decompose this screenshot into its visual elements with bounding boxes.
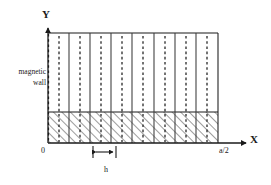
hatched-substrate-region xyxy=(48,112,218,143)
x-end-label: a/2 xyxy=(219,147,229,155)
y-axis-label: Y xyxy=(42,9,50,20)
origin-label: 0 xyxy=(41,147,45,155)
magnetic-wall-diagram xyxy=(0,0,271,185)
magnetic-wall-label: magnetic wall xyxy=(4,66,46,88)
magnetic-wall-label-line1: magnetic xyxy=(4,66,46,77)
period-label: h xyxy=(104,166,108,174)
period-dimension-marker xyxy=(93,146,116,158)
x-axis-label: X xyxy=(250,134,258,145)
magnetic-wall-label-line2: wall xyxy=(4,77,46,88)
